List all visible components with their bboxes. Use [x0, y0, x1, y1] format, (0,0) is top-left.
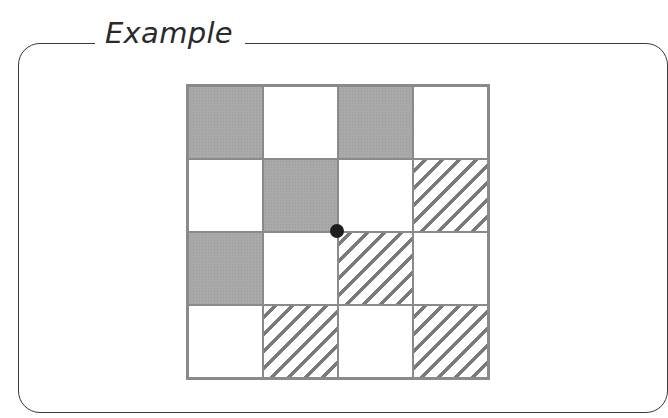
grid-cell-hatched [413, 159, 488, 232]
grid-cell-gray [188, 86, 263, 159]
grid-cell-white [413, 232, 488, 305]
center-point-dot [330, 224, 344, 238]
grid-cell-white [263, 232, 338, 305]
grid-cell-white [263, 86, 338, 159]
grid-cell-gray [263, 159, 338, 232]
grid-cell-gray [338, 86, 413, 159]
example-title: Example [105, 16, 233, 50]
grid-cell-white [188, 159, 263, 232]
grid-cell-gray [188, 232, 263, 305]
grid-cell-hatched [413, 305, 488, 378]
grid-cell-hatched [263, 305, 338, 378]
grid-cell-white [338, 305, 413, 378]
grid-cell-white [188, 305, 263, 378]
grid-cell-white [413, 86, 488, 159]
grid-cell-hatched [338, 232, 413, 305]
grid-cell-white [338, 159, 413, 232]
